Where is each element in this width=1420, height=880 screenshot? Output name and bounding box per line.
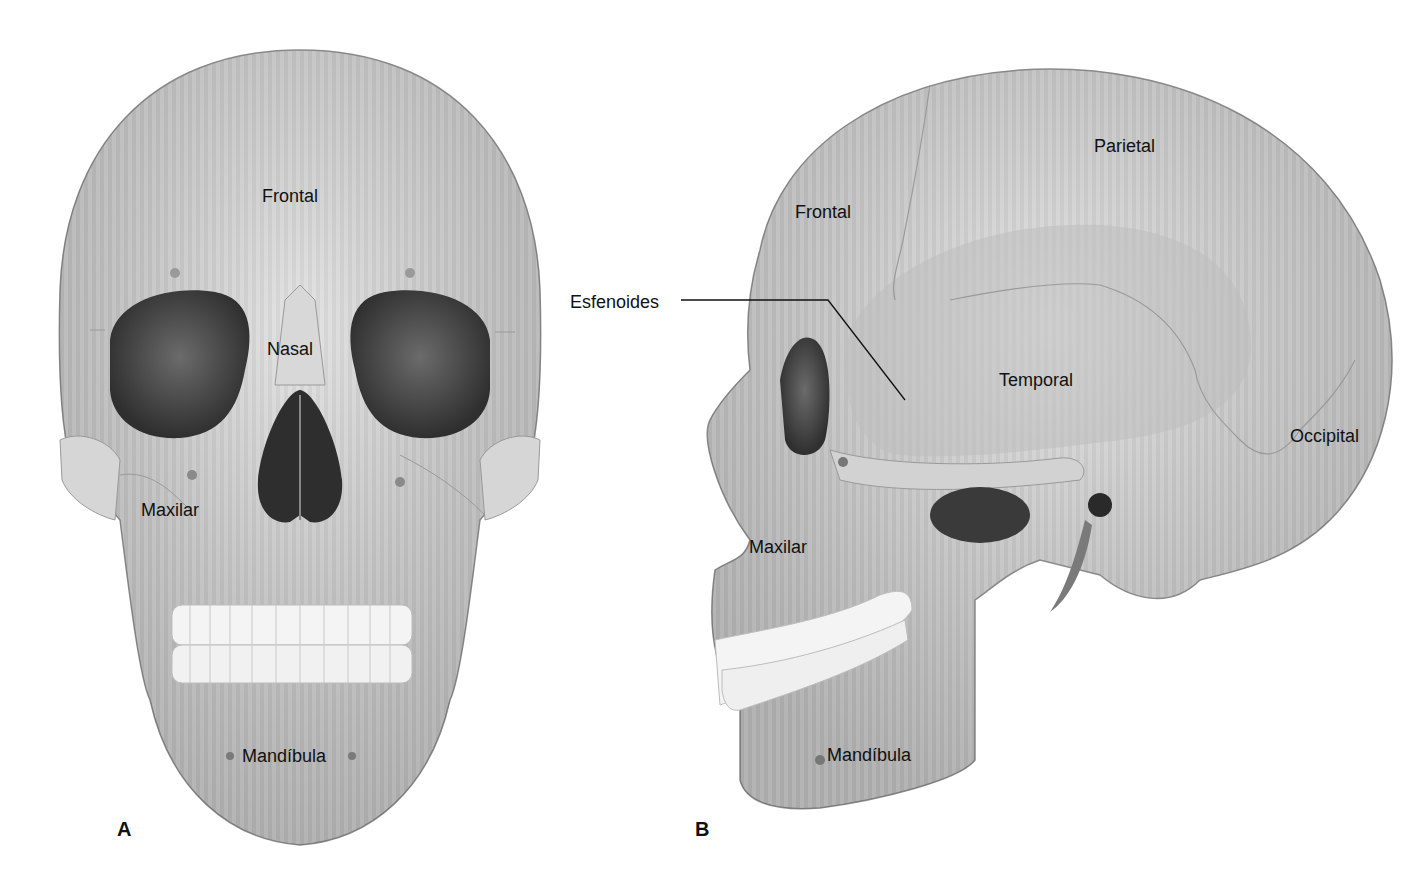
label-mandibula-anterior: Mandíbula	[242, 746, 326, 767]
label-temporal: Temporal	[999, 370, 1073, 391]
label-maxilar-lateral: Maxilar	[749, 537, 807, 558]
label-parietal: Parietal	[1094, 136, 1155, 157]
label-frontal-anterior: Frontal	[262, 186, 318, 207]
label-occipital: Occipital	[1290, 426, 1359, 447]
label-nasal: Nasal	[267, 339, 313, 360]
label-esfenoides: Esfenoides	[570, 292, 659, 313]
skull-anterior	[59, 50, 540, 845]
panel-letter-b: B	[695, 818, 709, 841]
label-mandibula-lateral: Mandíbula	[827, 745, 911, 766]
skull-lateral	[681, 69, 1392, 809]
panel-letter-a: A	[117, 818, 131, 841]
skull-illustration	[0, 0, 1420, 880]
teeth-anterior	[172, 605, 412, 683]
label-maxilar-anterior: Maxilar	[141, 500, 199, 521]
skull-diagram: Frontal Nasal Maxilar Mandíbula A Fronta…	[0, 0, 1420, 880]
label-frontal-lateral: Frontal	[795, 202, 851, 223]
